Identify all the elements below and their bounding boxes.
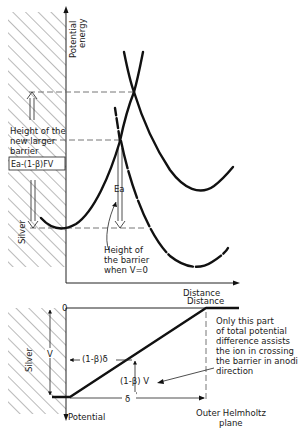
- reduced-barrier-formula: Ea-(1-β)FV: [11, 160, 54, 169]
- note-line-4: the ion in crossing: [216, 346, 294, 356]
- barrier-pointer-line: [107, 202, 116, 250]
- plane-label-line2: plane: [219, 418, 243, 428]
- x-axis-arrow-icon: [233, 281, 240, 286]
- fraction-potential-label: (1-β) V: [120, 376, 149, 386]
- delta-label: δ: [125, 394, 130, 404]
- upper-right-well-curve: [124, 52, 233, 191]
- note-pointer-arrow-icon: [157, 379, 164, 384]
- top-energy-diagram: Potential energy Distance Height of the: [8, 6, 240, 298]
- new-barrier-label-line1: Height of the: [10, 126, 66, 136]
- silver-label-bottom: Silver: [24, 348, 34, 372]
- rising-branch-curve: [120, 52, 143, 141]
- note-line-5: the barrier in anodic: [216, 356, 298, 366]
- note-line-2: of total potential: [216, 326, 287, 336]
- bottom-potential-diagram: Potential 0 Distance V Silver (1-β)δ (1-…: [8, 296, 298, 428]
- new-barrier-label-line3: barrier: [10, 146, 39, 156]
- activation-energy-label: Ea: [114, 184, 125, 194]
- potential-axis-label: Potential: [68, 412, 105, 422]
- plane-label-line1: Outer Helmholtz: [196, 408, 266, 418]
- delta-arrow-icon: [199, 396, 205, 401]
- barrier-v0-label-line3: when V=0: [104, 265, 148, 275]
- note-line-1: Only this part: [216, 316, 274, 326]
- v-label: V: [47, 349, 53, 359]
- pointer-arrow-icon: [112, 202, 117, 207]
- silver-label-top: Silver: [17, 220, 27, 244]
- y-axis-label-line2: energy: [77, 18, 87, 48]
- zero-label: 0: [62, 303, 67, 313]
- barrier-v0-label-line2: the barrier: [104, 255, 150, 265]
- x-axis-label-bottom: Distance: [187, 296, 224, 306]
- left-branch-dashed-continuation: [115, 108, 120, 141]
- new-barrier-label-line2: new larger: [10, 136, 56, 146]
- fraction-distance-label: (1-β)δ: [82, 354, 108, 364]
- note-line-3: difference assists: [216, 336, 291, 346]
- note-line-6: direction: [216, 366, 253, 376]
- y-axis-arrow-icon: [64, 6, 69, 13]
- barrier-v0-label-line1: Height of: [104, 245, 144, 255]
- diagram-canvas: Potential energy Distance Height of the: [0, 0, 298, 430]
